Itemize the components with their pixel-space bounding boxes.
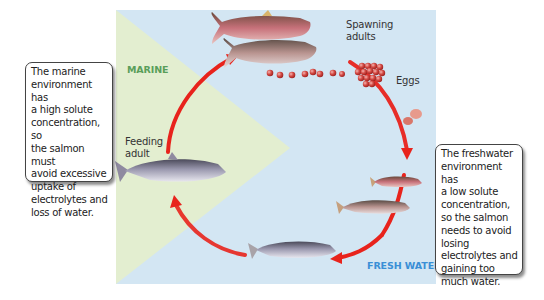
arrow-smolt-to-feeding — [176, 205, 245, 255]
eggs-label: Eggs — [396, 75, 419, 87]
arrow-to-spawning — [168, 58, 232, 152]
spawning-adults-label: Spawning adults — [346, 19, 393, 43]
eggs-trail — [267, 69, 345, 79]
parr-fish — [336, 200, 410, 214]
marine-callout: The marine environment has a high solute… — [25, 62, 113, 182]
arrow-parr-to-smolt — [338, 235, 382, 258]
feeding-adult-label: Feeding adult — [125, 136, 163, 160]
freshwater-callout: The freshwater environment has a low sol… — [435, 144, 523, 275]
freshwater-zone-label: FRESH WATER — [367, 260, 441, 271]
alevin — [403, 109, 422, 125]
spawning-adults-fish — [211, 10, 316, 68]
smolt-fish — [248, 242, 336, 259]
marine-zone-label: MARINE — [127, 64, 169, 75]
fry-fish — [370, 177, 422, 187]
salmon-life-cycle-diagram: MARINE FRESH WATER Spawning adults Eggs … — [0, 0, 544, 300]
cycle-arrows — [168, 54, 413, 264]
